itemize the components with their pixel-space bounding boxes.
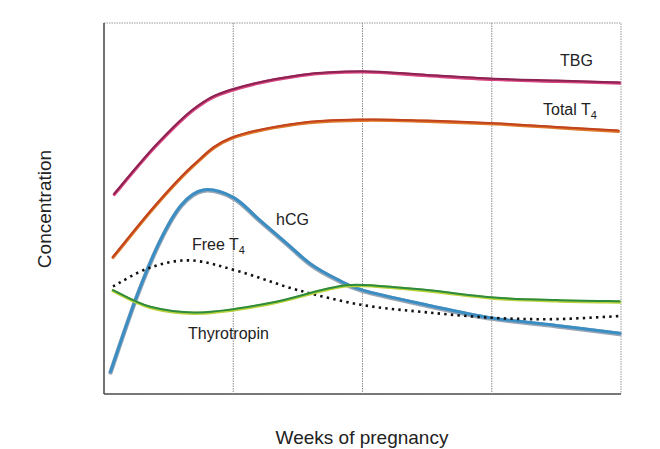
y-axis-label: Concentration	[34, 150, 56, 268]
label-total-t4: Total T4	[543, 102, 597, 118]
series-thyrotropin-line	[113, 285, 620, 313]
label-thyrotropin-text: Thyrotropin	[188, 325, 269, 342]
series-hcg-line	[111, 190, 620, 372]
label-total-t4-text: Total T	[543, 101, 591, 118]
label-thyrotropin: Thyrotropin	[188, 326, 269, 342]
series-tbg-line	[114, 71, 619, 194]
series-tbg-shadow	[114, 72, 619, 195]
label-total-t4-sub: 4	[591, 109, 597, 121]
series-total-t4-line	[113, 119, 618, 256]
label-free-t4-text: Free T	[192, 236, 239, 253]
label-tbg-text: TBG	[560, 52, 593, 69]
label-hcg: hCG	[276, 212, 309, 228]
series-hcg-shadow	[111, 190, 620, 372]
x-axis-label: Weeks of pregnancy	[276, 427, 449, 449]
series-total-t4-shadow	[113, 120, 618, 257]
label-hcg-text: hCG	[276, 211, 309, 228]
label-free-t4-sub: 4	[239, 244, 245, 256]
label-free-t4: Free T4	[192, 237, 245, 253]
label-tbg: TBG	[560, 53, 593, 69]
